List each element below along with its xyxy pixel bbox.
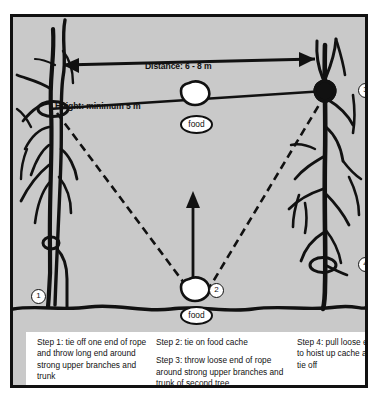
callout-marker-3: 3: [358, 83, 368, 98]
scene-drawing: [13, 17, 365, 385]
left-tree-branch-9: [61, 149, 77, 179]
step-text-2: Step 2: tie on food cache: [156, 337, 295, 348]
step-column-3: Step 4: pull loose end to hoist up cache…: [295, 337, 368, 371]
right-tree-branch-11: [305, 203, 307, 233]
step-text-3: Step 3: throw loose end of rope around s…: [156, 355, 295, 388]
right-tree-fork-right: [326, 39, 336, 77]
step-text-4: Step 4: pull loose end to hoist up cache…: [297, 337, 368, 371]
rope-dashed-left-leg: [57, 113, 193, 295]
diagram-stage: Distance: 6 - 8 m Height: minimum 5 m fo…: [0, 0, 382, 406]
right-tree-fork-left: [317, 41, 323, 79]
hoist-arrow: [186, 191, 200, 289]
right-tree-branch-6: [349, 177, 359, 215]
callout-marker-2: 2: [209, 283, 224, 298]
right-tree-branch-8: [295, 157, 323, 179]
step-text-1: Step 1: tie off one end of rope and thro…: [37, 337, 154, 383]
food-cache-hung-blob: [181, 81, 209, 105]
right-tree-branch-10: [293, 195, 299, 227]
left-tree-branch-4: [31, 145, 49, 175]
food-tag-ground: food: [180, 306, 213, 325]
distance-label: Distance: 6 - 8 m: [145, 61, 212, 71]
right-tree-branch-2: [353, 95, 355, 133]
left-tree-branch-7: [21, 149, 27, 179]
callout-marker-1: 1: [31, 289, 46, 304]
left-tree-branch-1: [17, 75, 51, 89]
step-column-2: Step 2: tie on food cache Step 3: throw …: [154, 337, 295, 388]
right-tree-branch-3: [326, 127, 343, 161]
callout-marker-4: 4: [358, 257, 368, 272]
distance-arrow-head-right: [299, 52, 315, 67]
right-tree-branch-4: [343, 161, 361, 179]
step-caption-panel: Step 1: tie off one end of rope and thro…: [26, 332, 368, 388]
figure-frame: Distance: 6 - 8 m Height: minimum 5 m fo…: [10, 14, 368, 388]
food-cache-ground-blob: [181, 277, 209, 301]
right-tree-branch-5: [325, 193, 349, 225]
food-tag-hung: food: [180, 115, 213, 134]
left-tree-branch-6: [35, 183, 49, 223]
left-tree-branch-3: [25, 127, 49, 149]
right-tree-branch-1: [327, 99, 353, 125]
left-tree-branch-5: [21, 165, 49, 201]
step-column-1: Step 1: tie off one end of rope and thro…: [26, 337, 154, 383]
hoist-arrow-head: [186, 191, 200, 208]
left-tree-trunk: [48, 29, 53, 307]
right-tree-fork-tip: [336, 39, 345, 75]
height-label: Height: minimum 5 m: [55, 101, 140, 111]
